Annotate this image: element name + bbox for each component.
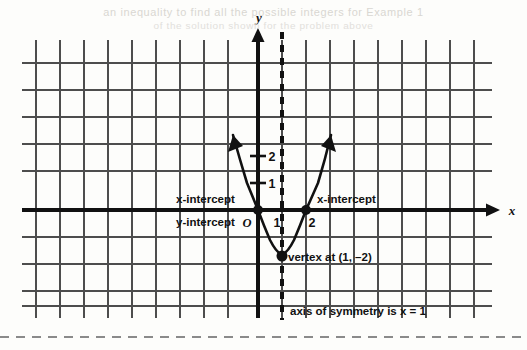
origin-label: O [242, 216, 251, 230]
point-x-intercept-two [301, 205, 311, 215]
point-vertex [277, 251, 288, 262]
x-axis-arrowhead [486, 204, 500, 217]
y-tick-label-2: 2 [269, 150, 276, 164]
bleed-through-text-line1: an inequality to find all the possible i… [0, 6, 527, 17]
x-tick-label-2: 2 [309, 216, 316, 230]
axes [22, 28, 500, 318]
x-axis-label: x [508, 203, 516, 218]
y-tick-label-1: 1 [269, 177, 276, 191]
annotation-vertex: vertex at (1, –2) [288, 251, 372, 263]
bleed-through-text-line2: of the solution shown for the problem ab… [0, 20, 527, 30]
annotation-axis-of-symmetry: axis of symmetry is x = 1 [290, 305, 426, 317]
annotation-x-intercept-left: x-intercept [176, 193, 235, 205]
x-tick-label-1: 1 [274, 216, 281, 230]
graph-figure: an inequality to find all the possible i… [0, 0, 527, 350]
point-x-intercept-origin [253, 205, 263, 215]
coordinate-plane-svg: y x O 1 2 1 2 x-intercept x-intercept y-… [0, 0, 527, 350]
annotation-x-intercept-right: x-intercept [317, 193, 376, 205]
annotation-y-intercept: y-intercept [176, 216, 235, 228]
